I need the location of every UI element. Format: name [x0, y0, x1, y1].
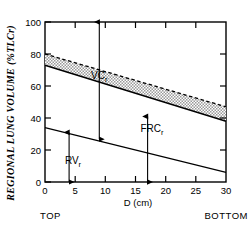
x-tick-label-15: 15: [130, 185, 141, 196]
corner-label-top: TOP: [40, 210, 61, 221]
y-axis-ticks: [45, 22, 51, 182]
y-tick-label-100: 100: [25, 17, 41, 28]
x-tick-label-25: 25: [191, 185, 202, 196]
y-tick-label-20: 20: [30, 145, 41, 156]
y-tick-label-80: 80: [30, 49, 41, 60]
annotation-rvr: RVr: [65, 132, 82, 182]
corner-label-bottom: BOTTOM: [205, 210, 248, 221]
rvr-label: RVr: [65, 155, 82, 169]
x-axis-title: D (cm): [124, 197, 153, 208]
x-axis-ticks-bottom: [75, 176, 196, 182]
y-tick-label-60: 60: [30, 81, 41, 92]
x-axis-ticks-top: [75, 22, 196, 28]
annotation-vcr: VCr: [91, 22, 108, 139]
x-tick-label-10: 10: [100, 185, 111, 196]
frc-shaded-band: [45, 54, 226, 121]
figure-container: 0 20 40 60 80 100 0 5 10 15 20 25 30 D (…: [0, 0, 251, 226]
frcr-label: FRCr: [140, 123, 164, 137]
lung-volume-chart: 0 20 40 60 80 100 0 5 10 15 20 25 30 D (…: [0, 0, 251, 226]
x-tick-label-30: 30: [221, 185, 232, 196]
frc-lower-solid-line: [45, 65, 226, 121]
y-tick-label-40: 40: [30, 113, 41, 124]
x-tick-label-5: 5: [73, 185, 78, 196]
y-axis-title: REGIONAL LUNG VOLUME (%TLCr): [5, 25, 17, 202]
annotation-frcr: FRCr: [140, 116, 164, 182]
x-tick-label-20: 20: [160, 185, 171, 196]
y-axis-ticks-right: [220, 54, 226, 150]
x-tick-label-0: 0: [42, 185, 47, 196]
y-tick-label-0: 0: [36, 177, 41, 188]
